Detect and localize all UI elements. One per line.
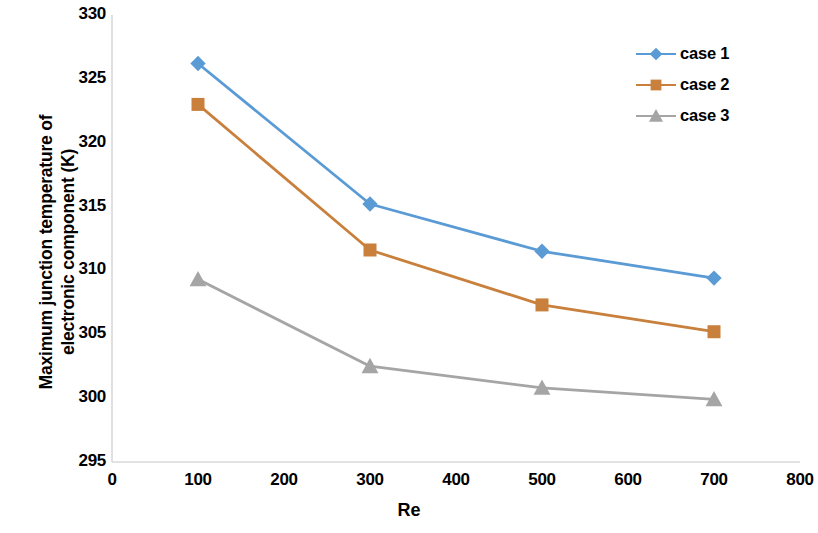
legend-label: case 3 (680, 106, 729, 125)
legend: case 1case 2case 3 (636, 38, 806, 131)
data-point-marker (190, 271, 207, 286)
x-axis-tick-label: 700 (684, 470, 744, 490)
series-line (198, 279, 714, 399)
x-axis-tick-label: 0 (82, 470, 142, 490)
data-point-marker (362, 358, 379, 373)
data-point-marker (364, 243, 377, 256)
x-axis-tick-labels: 0100200300400500600700800 (0, 470, 818, 494)
data-point-marker (708, 325, 721, 338)
line-chart: Maximum junction temperature of electron… (0, 0, 818, 533)
legend-item-case-3[interactable]: case 3 (636, 100, 806, 131)
x-axis-tick-label: 500 (512, 470, 572, 490)
legend-swatch (636, 44, 676, 64)
x-axis-tick-label: 800 (770, 470, 818, 490)
series-case-3 (190, 271, 723, 406)
data-point-marker (192, 98, 205, 111)
legend-item-case-2[interactable]: case 2 (636, 69, 806, 100)
x-axis-tick-label: 200 (254, 470, 314, 490)
x-axis-tick-label: 400 (426, 470, 486, 490)
x-axis-tick-label: 600 (598, 470, 658, 490)
legend-marker-square-icon (649, 78, 663, 92)
legend-swatch (636, 106, 676, 126)
legend-marker-triangle-icon (649, 109, 663, 123)
x-axis-title: Re (0, 500, 818, 521)
series-line (198, 104, 714, 331)
x-axis-tick-label: 100 (168, 470, 228, 490)
legend-label: case 2 (680, 75, 729, 94)
legend-label: case 1 (680, 44, 729, 63)
legend-swatch (636, 75, 676, 95)
x-axis-tick-label: 300 (340, 470, 400, 490)
data-point-marker (534, 244, 549, 259)
data-point-marker (706, 270, 721, 285)
legend-item-case-1[interactable]: case 1 (636, 38, 806, 69)
series-case-2 (192, 98, 721, 338)
data-point-marker (536, 298, 549, 311)
legend-marker-diamond-icon (649, 47, 663, 61)
